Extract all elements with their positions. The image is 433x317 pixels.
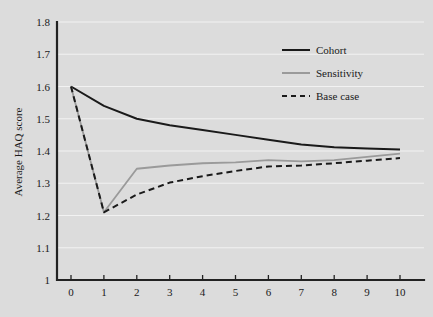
y-tick-label: 1.7 [36, 48, 50, 60]
legend-label-cohort: Cohort [316, 44, 347, 56]
x-tick-label: 9 [364, 286, 370, 298]
y-tick-label: 1.4 [36, 145, 50, 157]
x-tick-label: 4 [200, 286, 206, 298]
figure-background [0, 0, 433, 317]
y-tick-label: 1.8 [36, 16, 50, 28]
x-tick-label: 3 [167, 286, 173, 298]
y-tick-labels-group: 11.11.21.31.41.51.61.71.8 [36, 16, 50, 286]
y-tick-label: 1 [45, 274, 51, 286]
line-chart: 012345678910 11.11.21.31.41.51.61.71.8 A… [0, 0, 433, 317]
x-tick-label: 6 [266, 286, 272, 298]
x-tick-label: 0 [68, 286, 74, 298]
x-tick-label: 8 [331, 286, 337, 298]
chart-figure: 012345678910 11.11.21.31.41.51.61.71.8 A… [0, 0, 433, 317]
x-tick-label: 10 [395, 286, 407, 298]
y-tick-label: 1.1 [36, 242, 50, 254]
y-tick-label: 1.5 [36, 113, 50, 125]
x-tick-label: 1 [101, 286, 107, 298]
x-tick-label: 7 [299, 286, 305, 298]
y-tick-label: 1.2 [36, 210, 50, 222]
legend-label-sensitivity: Sensitivity [316, 67, 364, 79]
y-tick-label: 1.6 [36, 81, 50, 93]
y-tick-label: 1.3 [36, 177, 50, 189]
x-tick-label: 2 [134, 286, 140, 298]
legend-label-base-case: Base case [316, 90, 359, 102]
y-axis-title: Average HAQ score [12, 107, 24, 196]
x-tick-label: 5 [233, 286, 239, 298]
